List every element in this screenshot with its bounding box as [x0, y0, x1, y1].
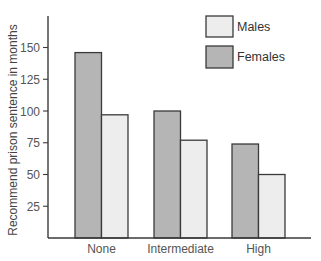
bar-males-intermediate [181, 140, 208, 238]
y-tick-label: 75 [27, 136, 41, 150]
bar-males-none [102, 115, 129, 238]
bar-females-intermediate [154, 111, 181, 238]
bar-males-high [259, 175, 286, 239]
legend-label-males: Males [237, 20, 270, 34]
bar-chart: 255075100125150 NoneIntermediateHigh Rec… [0, 0, 321, 261]
y-tick-label: 125 [20, 73, 40, 87]
x-category-label: None [87, 242, 116, 256]
x-category-label: Intermediate [147, 242, 214, 256]
legend-swatch-females [206, 46, 233, 68]
y-tick-label: 100 [20, 105, 40, 119]
y-axis-ticks: 255075100125150 [20, 41, 48, 214]
x-axis-labels: NoneIntermediateHigh [87, 242, 271, 256]
bar-females-none [75, 53, 102, 238]
bar-females-high [232, 144, 259, 238]
bars [75, 53, 285, 238]
x-category-label: High [246, 242, 271, 256]
legend-label-females: Females [237, 50, 285, 64]
y-tick-label: 50 [27, 168, 41, 182]
legend-swatch-males [206, 16, 233, 37]
legend: Males Females [206, 16, 285, 68]
y-axis-label: Recommend prison sentence in months [6, 24, 20, 235]
y-tick-label: 150 [20, 41, 40, 55]
y-tick-label: 25 [27, 200, 41, 214]
